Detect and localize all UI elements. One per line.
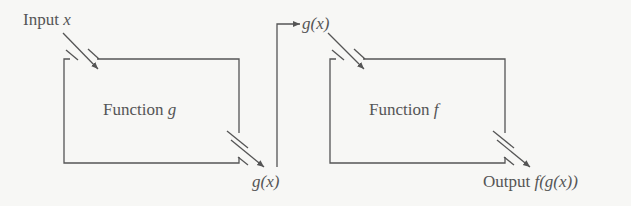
g-output-label: g(x): [252, 172, 279, 192]
connector-line: [277, 24, 300, 167]
function-g-text: Function: [103, 100, 163, 119]
input-var: x: [63, 10, 71, 29]
f-input-label: g(x): [302, 14, 329, 34]
function-f-text: Function: [369, 100, 429, 119]
output-label: Output f(g(x)): [483, 172, 578, 192]
output-text: Output: [483, 172, 530, 191]
input-arrow: [63, 33, 98, 69]
function-f-label: Function f: [369, 100, 438, 120]
function-g-var: g: [168, 100, 177, 119]
output-expr: f(g(x)): [534, 172, 577, 191]
function-g-label: Function g: [103, 100, 176, 120]
function-f-var: f: [434, 100, 439, 119]
input-text: Input: [23, 10, 59, 29]
input-label: Input x: [23, 10, 71, 30]
